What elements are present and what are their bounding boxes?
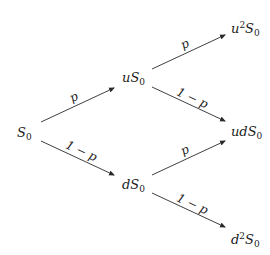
node-s0: S0 (17, 126, 32, 142)
tree-edges (0, 0, 270, 255)
node-d2s0: d2S0 (231, 232, 260, 249)
node-d2s0-base: S (245, 232, 254, 247)
edge-s0-us0 (41, 88, 114, 122)
edge-us0-u2s0 (152, 35, 225, 69)
edge-ds0-uds0 (152, 141, 225, 175)
node-ds0: dS0 (122, 178, 145, 194)
node-us0-sub: 0 (139, 77, 145, 87)
node-s0-base: S (17, 125, 26, 140)
node-uds0-base: S (248, 124, 257, 139)
node-u2s0-base: S (245, 21, 254, 36)
node-uds0: udS0 (231, 125, 262, 141)
node-ds0-base: S (130, 177, 139, 192)
node-us0-base: S (130, 70, 139, 85)
node-us0: uS0 (122, 71, 145, 87)
node-uds0-prefix: ud (231, 124, 248, 139)
node-u2s0-sub: 0 (254, 28, 260, 38)
node-s0-sub: 0 (26, 132, 32, 142)
node-d2s0-sub: 0 (254, 239, 260, 249)
node-u2s0: u2S0 (231, 21, 260, 38)
node-uds0-sub: 0 (257, 131, 263, 141)
node-ds0-sub: 0 (139, 184, 145, 194)
